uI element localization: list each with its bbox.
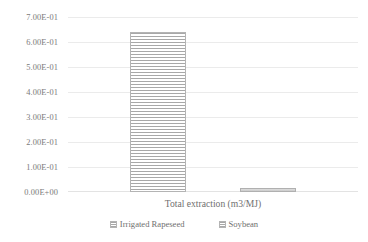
y-tick-label: 6.00E-01: [26, 37, 58, 46]
chart-legend: Irrigated Rapeseed Soybean: [0, 219, 368, 229]
y-tick-label: 3.00E-01: [26, 112, 58, 121]
gridline: [68, 42, 358, 43]
gridline: [68, 17, 358, 18]
gridline: [68, 142, 358, 143]
x-axis-title: Total extraction (m3/MJ): [68, 198, 358, 209]
y-tick-label: 0.00E+00: [24, 188, 58, 197]
legend-swatch-icon: [110, 221, 117, 228]
bar-irrigated-rapeseed: [130, 32, 186, 192]
legend-item-irrigated-rapeseed[interactable]: Irrigated Rapeseed: [110, 219, 185, 229]
legend-item-soybean[interactable]: Soybean: [219, 219, 259, 229]
plot-area: [68, 17, 358, 192]
x-axis-baseline: [68, 191, 358, 192]
y-tick-label: 4.00E-01: [26, 87, 58, 96]
legend-label: Irrigated Rapeseed: [120, 219, 185, 229]
bar-soybean: [240, 188, 296, 192]
gridline: [68, 117, 358, 118]
legend-swatch-icon: [219, 221, 226, 228]
gridline: [68, 167, 358, 168]
y-tick-label: 1.00E-01: [26, 162, 58, 171]
gridline: [68, 92, 358, 93]
y-tick-label: 5.00E-01: [26, 62, 58, 71]
legend-label: Soybean: [229, 219, 259, 229]
y-tick-label: 7.00E-01: [26, 13, 58, 22]
y-axis-tick-labels: 7.00E-01 6.00E-01 5.00E-01 4.00E-01 3.00…: [0, 17, 64, 192]
y-tick-label: 2.00E-01: [26, 137, 58, 146]
gridline: [68, 67, 358, 68]
bar-chart: 7.00E-01 6.00E-01 5.00E-01 4.00E-01 3.00…: [0, 0, 368, 242]
